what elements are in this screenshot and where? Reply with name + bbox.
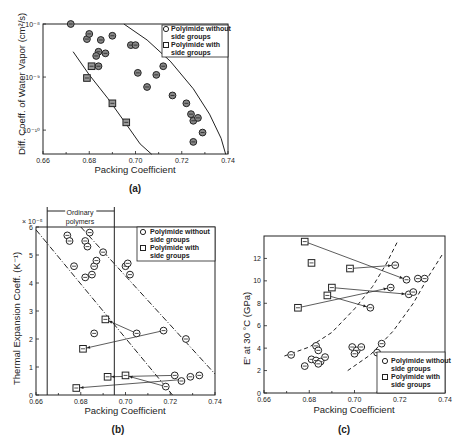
x-tick-label: 0.66 [36,157,50,164]
legend-label-without-2: side groups [391,365,431,373]
x-tick-label: 0.68 [302,396,316,403]
chart-b-y-multiplier: × 10⁻⁵ [22,218,43,225]
chart-b-x-axis-label: Packing Coefficient [84,405,166,416]
x-tick-label: 0.68 [74,398,88,405]
y-tick-label: 10⁻⁹ [25,74,40,81]
chart-b-y-axis-label: Thermal Expansion Coeff. (K⁻¹) [11,252,22,385]
y-tick-label: 4 [29,280,33,287]
legend-circle-icon [163,26,168,31]
legend-label-with-2: side groups [391,381,431,389]
y-tick-label: 2 [29,336,33,343]
y-tick-label: 1 [29,364,33,371]
x-tick-label: 0.70 [129,157,143,164]
legend-label-without-2: side groups [171,33,211,41]
legend-square-icon [383,375,388,380]
chart-a-y-axis-label: Diff. Coeff. of Water Vapor (cm²/s) [16,13,27,155]
legend-square-icon [164,43,169,48]
y-tick-label: 0 [257,390,261,397]
legend-label-with: Polyimide with [171,41,220,49]
x-tick-label: 0.70 [348,396,362,403]
chart-c-caption: (c) [338,424,350,435]
legend-label-without-2: side groups [150,236,190,244]
y-tick-label: 0 [29,392,33,399]
x-tick-label: 0.70 [119,398,133,405]
chart-b-legend: Polyimide without side groups Polyimide … [137,227,215,261]
figure-canvas: 0.660.680.700.720.7410⁻⁸10⁻⁹10⁻¹⁰ Polyim… [0,0,462,447]
y-tick-label: 3 [29,308,33,315]
x-tick-label: 0.72 [393,396,407,403]
x-tick-label: 0.66 [29,398,43,405]
x-tick-label: 0.74 [221,157,235,164]
chart-b-annotation-ordinary: Ordinary [67,209,94,217]
chart-c-legend: Polyimide without side groups Polyimide … [377,352,452,393]
y-tick-label: 2 [257,367,261,374]
legend-label-without: Polyimide without [150,228,211,236]
chart-c-y-axis-label: E' at 30 °C (GPa) [241,292,252,365]
x-tick-label: 0.66 [257,396,271,403]
y-tick-label: 12 [253,255,261,262]
y-tick-label: 4 [257,345,261,352]
chart-a-x-axis-label: Packing Coefficient [94,164,176,175]
legend-circle-icon [140,229,145,234]
chart-a-legend: Polyimide without side groups Polyimide … [162,25,232,57]
y-tick-label: 8 [257,300,261,307]
chart-a-caption: (a) [129,183,141,194]
legend-label-with: Polyimide with [391,373,440,381]
legend-circle-icon [382,358,387,363]
legend-label-with-2: side groups [150,252,190,260]
chart-a-water-vapor-diffusion: 0.660.680.700.720.7410⁻⁸10⁻⁹10⁻¹⁰ Polyim… [16,13,235,194]
y-tick-label: 10⁻⁸ [25,21,40,28]
chart-b-caption: (b) [112,424,125,435]
x-tick-label: 0.74 [438,396,452,403]
x-tick-label: 0.74 [208,398,222,405]
chart-c-storage-modulus: 0.660.680.700.720.74024681012 Polyimide … [241,236,452,435]
x-tick-label: 0.72 [175,157,189,164]
x-tick-label: 0.68 [82,157,96,164]
chart-b-annotation-polymers: polymers [66,218,95,226]
chart-c-x-axis-label: Packing Coefficient [313,404,395,415]
legend-label-without: Polyimide without [171,25,232,33]
chart-b-thermal-expansion: 0.660.680.700.720.740123456 Polyimide wi… [11,207,222,435]
y-tick-label: 6 [257,322,261,329]
legend-square-icon [141,246,146,251]
legend-label-with-2: side groups [171,49,211,57]
x-tick-label: 0.72 [163,398,177,405]
chart-b-ordinary-polymers-band [47,207,114,395]
y-tick-label: 5 [29,252,33,259]
y-tick-label: 10 [253,277,261,284]
legend-label-without: Polyimide without [391,357,452,365]
legend-label-with: Polyimide with [150,244,199,252]
